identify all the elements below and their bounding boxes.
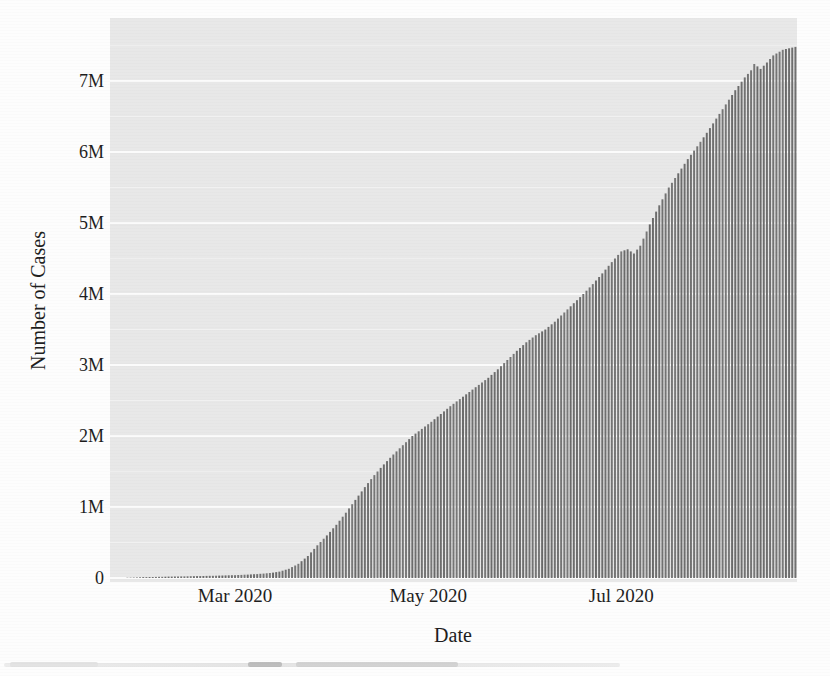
daily-cases-bar <box>614 259 616 579</box>
daily-cases-bar <box>636 250 638 578</box>
daily-cases-bar <box>459 399 461 578</box>
scanned-figure-page: Number of Cases 01M2M3M4M5M6M7M Mar 2020… <box>0 0 830 676</box>
daily-cases-bar <box>687 159 689 578</box>
cutoff-caption-mark <box>10 662 98 667</box>
daily-cases-bar <box>269 573 271 578</box>
daily-cases-bar <box>668 188 670 579</box>
daily-cases-bar <box>680 169 682 578</box>
daily-cases-bar <box>446 409 448 578</box>
daily-cases-bar <box>604 270 606 578</box>
daily-cases-bar <box>174 577 176 579</box>
daily-cases-bar <box>193 576 195 578</box>
daily-cases-bar <box>405 442 407 578</box>
daily-cases-bar <box>408 439 410 578</box>
daily-cases-bar <box>133 578 135 579</box>
daily-cases-bar <box>282 571 284 578</box>
daily-cases-bar <box>171 577 173 578</box>
daily-cases-bar <box>234 575 236 578</box>
daily-cases-bar <box>573 303 575 578</box>
daily-cases-bar <box>585 291 587 578</box>
daily-cases-bar <box>342 517 344 578</box>
daily-cases-bar <box>367 483 369 578</box>
daily-cases-bar <box>218 576 220 578</box>
daily-cases-bar <box>709 128 711 578</box>
daily-cases-bar <box>190 576 192 578</box>
x-axis-title: Date <box>434 624 472 647</box>
daily-cases-bar <box>339 521 341 578</box>
daily-cases-bar <box>437 417 439 578</box>
daily-cases-bar <box>228 575 230 578</box>
daily-cases-bar <box>541 331 543 578</box>
daily-cases-bar <box>326 535 328 578</box>
daily-cases-bar <box>206 576 208 578</box>
daily-cases-bar <box>164 577 166 578</box>
daily-cases-bar <box>579 297 581 578</box>
daily-cases-bar <box>465 394 467 578</box>
y-tick-label: 0 <box>40 567 104 589</box>
daily-cases-bar <box>389 458 391 578</box>
daily-cases-bar <box>443 411 445 578</box>
daily-cases-bar <box>472 390 474 578</box>
daily-cases-bar <box>627 249 629 578</box>
daily-cases-bar <box>576 300 578 578</box>
daily-cases-bar <box>240 575 242 578</box>
daily-cases-bar <box>548 327 550 578</box>
daily-cases-bar <box>513 354 515 578</box>
daily-cases-bar <box>332 528 334 578</box>
daily-cases-bar <box>440 414 442 578</box>
daily-cases-bar <box>655 212 657 578</box>
daily-cases-bar <box>221 576 223 579</box>
daily-cases-bar <box>598 277 600 578</box>
daily-cases-bar <box>478 385 480 578</box>
x-tick-label: Mar 2020 <box>198 585 272 607</box>
daily-cases-bar <box>671 183 673 578</box>
daily-cases-bar <box>456 401 458 578</box>
daily-cases-bar <box>383 464 385 578</box>
daily-cases-bar <box>484 380 486 578</box>
daily-cases-bar <box>503 363 505 578</box>
daily-cases-bar <box>263 574 265 578</box>
daily-cases-bar <box>453 404 455 578</box>
daily-cases-bar <box>744 77 746 578</box>
daily-cases-bar <box>320 542 322 578</box>
daily-cases-bar <box>525 342 527 578</box>
daily-cases-bar <box>494 372 496 578</box>
daily-cases-bar <box>250 574 252 578</box>
daily-cases-bar <box>370 479 372 578</box>
daily-cases-bar <box>737 86 739 578</box>
daily-cases-bar <box>462 397 464 578</box>
daily-cases-bar <box>177 577 179 579</box>
daily-cases-bar <box>623 250 625 578</box>
daily-cases-bar <box>779 52 781 578</box>
daily-cases-bar <box>351 504 353 578</box>
daily-cases-bar <box>136 577 138 578</box>
daily-cases-bar <box>788 48 790 578</box>
daily-cases-bar <box>215 576 217 578</box>
daily-cases-bar <box>731 95 733 578</box>
daily-cases-bar <box>266 573 268 578</box>
daily-cases-bar <box>380 468 382 578</box>
daily-cases-bar <box>554 322 556 578</box>
daily-cases-bar <box>212 576 214 578</box>
daily-cases-bar <box>661 199 663 578</box>
daily-cases-bar <box>750 70 752 578</box>
y-tick-label: 3M <box>40 354 104 376</box>
y-tick-label: 5M <box>40 212 104 234</box>
daily-cases-bar <box>225 575 227 578</box>
daily-cases-bar <box>259 574 261 578</box>
daily-cases-bar <box>285 570 287 578</box>
daily-cases-bar <box>693 151 695 578</box>
daily-cases-bar <box>294 566 296 579</box>
daily-cases-bar <box>560 316 562 579</box>
y-tick-label: 6M <box>40 141 104 163</box>
daily-cases-bar <box>756 66 758 578</box>
daily-cases-bar <box>500 366 502 578</box>
daily-cases-bar <box>510 357 512 578</box>
daily-cases-bar <box>396 451 398 578</box>
daily-cases-bar <box>158 577 160 578</box>
daily-cases-bar <box>699 142 701 578</box>
daily-cases-bar <box>244 575 246 578</box>
daily-cases-bar <box>430 422 432 578</box>
x-tick-label: May 2020 <box>389 585 467 607</box>
daily-cases-bar <box>665 193 667 578</box>
